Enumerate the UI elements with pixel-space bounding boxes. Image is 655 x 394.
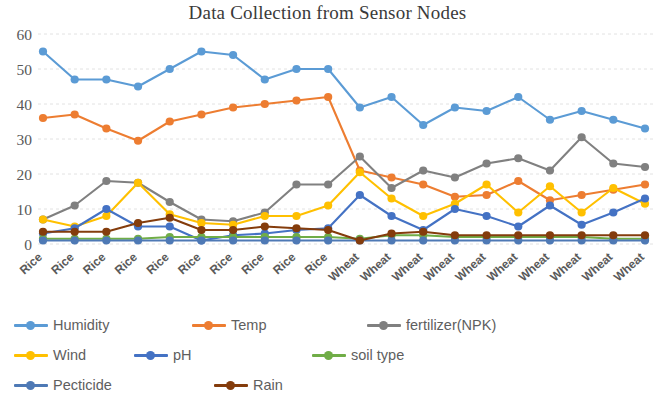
data-point — [514, 231, 522, 239]
data-point — [39, 215, 47, 223]
data-point — [609, 208, 617, 216]
legend-swatch-marker — [26, 351, 35, 360]
data-point — [166, 198, 174, 206]
legend-item-humidity[interactable]: Humidity — [14, 310, 192, 340]
data-point — [292, 224, 300, 232]
legend-item-wind[interactable]: Wind — [14, 340, 134, 370]
data-point — [134, 219, 142, 227]
plot-area: 0102030405060RiceRiceRiceRiceRiceRiceRic… — [0, 0, 655, 310]
data-point — [356, 191, 364, 199]
x-axis-tick-label: Wheat — [357, 250, 393, 284]
x-axis-tick-label: Wheat — [516, 250, 552, 284]
data-point — [419, 180, 427, 188]
data-point — [514, 93, 522, 101]
legend-label: Temp — [231, 317, 266, 333]
data-point — [324, 93, 332, 101]
data-point — [71, 201, 79, 209]
data-point — [451, 193, 459, 201]
data-point — [102, 228, 110, 236]
x-axis-tick-label: Rice — [112, 250, 140, 278]
legend-label: Pecticide — [53, 377, 112, 393]
data-point — [292, 180, 300, 188]
y-axis-tick-label: 40 — [17, 96, 33, 113]
series-line — [43, 97, 645, 200]
data-point — [102, 236, 110, 244]
legend-item-ph[interactable]: pH — [134, 340, 312, 370]
data-point — [578, 191, 586, 199]
legend-swatch — [14, 348, 48, 362]
legend-item-rain[interactable]: Rain — [214, 370, 334, 394]
legend-item-pecticide[interactable]: Pecticide — [14, 370, 214, 394]
data-point — [387, 236, 395, 244]
data-point — [166, 236, 174, 244]
data-point — [134, 137, 142, 145]
data-point — [482, 180, 490, 188]
legend-swatch — [134, 348, 168, 362]
legend-item-soil-type[interactable]: soil type — [312, 340, 487, 370]
legend-swatch-marker — [324, 351, 333, 360]
legend-swatch-marker — [226, 381, 235, 390]
x-axis-tick-label: Rice — [48, 250, 76, 278]
data-point — [419, 228, 427, 236]
legend-swatch — [367, 318, 401, 332]
legend-item-fertilizer-npk[interactable]: fertilizer(NPK) — [367, 310, 567, 340]
data-point — [356, 103, 364, 111]
data-point — [261, 75, 269, 83]
data-point — [578, 107, 586, 115]
data-point — [451, 173, 459, 181]
data-point — [546, 231, 554, 239]
data-point — [229, 103, 237, 111]
legend-label: Humidity — [53, 317, 109, 333]
data-point — [419, 166, 427, 174]
legend-swatch-marker — [146, 351, 155, 360]
data-point — [134, 82, 142, 90]
data-point — [609, 184, 617, 192]
data-point — [387, 93, 395, 101]
legend-label: Wind — [53, 347, 86, 363]
legend-swatch — [14, 378, 48, 392]
data-point — [166, 65, 174, 73]
data-point — [356, 152, 364, 160]
legend-label: Rain — [253, 377, 283, 393]
x-axis-tick-label: Rice — [175, 250, 203, 278]
data-point — [546, 201, 554, 209]
data-point — [292, 236, 300, 244]
data-point — [451, 231, 459, 239]
data-point — [166, 222, 174, 230]
data-point — [578, 133, 586, 141]
data-point — [71, 110, 79, 118]
data-point — [39, 236, 47, 244]
data-point — [482, 191, 490, 199]
data-point — [102, 212, 110, 220]
data-point — [514, 177, 522, 185]
data-point — [261, 212, 269, 220]
x-axis-tick-label: Wheat — [389, 250, 425, 284]
chart-legend: HumidityTempfertilizer(NPK)WindpHsoil ty… — [14, 310, 646, 394]
x-axis-tick-label: Wheat — [326, 250, 362, 284]
legend-item-temp[interactable]: Temp — [192, 310, 367, 340]
data-point — [482, 107, 490, 115]
legend-swatch-marker — [26, 321, 35, 330]
legend-swatch — [312, 348, 346, 362]
x-axis-tick-label: Wheat — [548, 250, 584, 284]
data-point — [451, 103, 459, 111]
data-point — [197, 236, 205, 244]
series-humidity — [39, 47, 649, 132]
data-point — [482, 231, 490, 239]
legend-swatch — [14, 318, 48, 332]
data-point — [39, 114, 47, 122]
data-point — [134, 179, 142, 187]
data-point — [261, 100, 269, 108]
data-point — [641, 124, 649, 132]
legend-label: pH — [173, 347, 192, 363]
data-point — [229, 226, 237, 234]
data-point — [71, 75, 79, 83]
x-axis-tick-label: Wheat — [611, 250, 647, 284]
data-point — [324, 180, 332, 188]
data-point — [419, 212, 427, 220]
legend-label: fertilizer(NPK) — [406, 317, 496, 333]
x-axis-tick-label: Rice — [270, 250, 298, 278]
data-point — [134, 236, 142, 244]
data-point — [197, 110, 205, 118]
